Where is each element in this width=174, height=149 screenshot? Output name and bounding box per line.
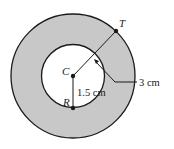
label-c: C — [62, 65, 70, 77]
point-t — [114, 29, 118, 33]
point-r — [71, 106, 75, 110]
annulus-diagram: C T R 1.5 cm 3 cm — [0, 0, 174, 149]
label-outer-radius: 3 cm — [139, 77, 160, 88]
label-inner-radius: 1.5 cm — [77, 87, 106, 98]
center-point-c — [71, 74, 75, 78]
label-t: T — [119, 17, 126, 29]
label-r: R — [62, 96, 70, 108]
